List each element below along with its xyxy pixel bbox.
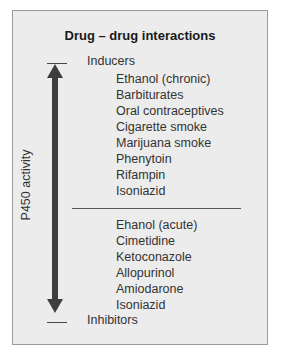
inducer-item: Isoniazid xyxy=(116,183,224,199)
inhibitor-item: Isoniazid xyxy=(116,297,197,313)
inducer-item: Marijuana smoke xyxy=(116,135,224,151)
p450-activity-arrow xyxy=(52,72,58,306)
inducers-label: Inducers xyxy=(87,54,135,68)
divider-line xyxy=(72,208,241,209)
inducer-item: Rifampin xyxy=(116,167,224,183)
inhibitor-item: Cimetidine xyxy=(116,233,197,249)
p450-activity-axis-label: P450 activity xyxy=(19,150,33,221)
bottom-tick xyxy=(47,322,67,323)
inhibitor-item: Ketoconazole xyxy=(116,249,197,265)
inducer-item: Phenytoin xyxy=(116,151,224,167)
inducer-item: Barbiturates xyxy=(116,87,224,103)
inducer-item: Cigarette smoke xyxy=(116,119,224,135)
inhibitor-item: Amiodarone xyxy=(116,281,197,297)
diagram-title: Drug – drug interactions xyxy=(12,28,268,43)
inducers-list: Ethanol (chronic) Barbiturates Oral cont… xyxy=(116,71,224,199)
inhibitor-item: Allopurinol xyxy=(116,265,197,281)
inhibitors-label: Inhibitors xyxy=(87,313,138,327)
inducer-item: Oral contraceptives xyxy=(116,103,224,119)
inhibitors-list: Ehanol (acute) Cimetidine Ketoconazole A… xyxy=(116,217,197,313)
inducer-item: Ethanol (chronic) xyxy=(116,71,224,87)
inhibitor-item: Ehanol (acute) xyxy=(116,217,197,233)
arrow-down-icon xyxy=(47,299,63,313)
